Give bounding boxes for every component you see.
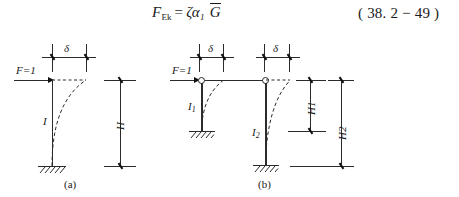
deflection-curve-b1: [202, 81, 224, 132]
height-b1-label: H1: [305, 102, 317, 115]
inertia-b2-label: I2: [252, 126, 260, 140]
support-b1-hatching: [189, 132, 215, 139]
figure-root: FEk=ζα1 G ( 38. 2 − 49 ) δ F=1: [0, 0, 459, 197]
support-b2-hatching: [253, 166, 279, 173]
deflection-curve-b2: [266, 81, 291, 166]
deflection-b-group: [0, 0, 459, 197]
height-b2-label: H2: [336, 127, 348, 140]
height-b2-dim-line: [341, 80, 342, 166]
height-b2-ext-bottom: [290, 166, 354, 167]
inertia-b1-label: I1: [188, 100, 196, 114]
height-b1-ext-bottom: [288, 131, 326, 132]
caption-b: (b): [258, 178, 271, 190]
